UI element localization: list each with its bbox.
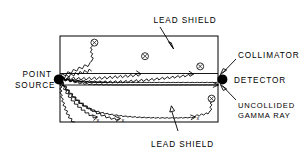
ray-end-marker-x-2: x [122,117,125,123]
label-point-source-line2: SOURCE [15,81,55,90]
gamma-ray-shield-diagram: x x x LEAD SHIELD LEAD SHIELD POINT SOUR… [0,0,304,158]
detector-dot [217,74,227,84]
label-lead-shield-bottom: LEAD SHIELD [151,140,214,149]
collimator-leader [223,59,237,73]
label-lead-shield-top: LEAD SHIELD [154,16,217,25]
label-uncollided-line1: UNCOLLIDED [238,101,295,110]
lead-shield-rectangle [60,36,218,122]
uncollided-gamma-ray-leader [223,86,237,100]
label-point-source-line1: POINT [23,70,53,79]
label-collimator: COLLIMATOR [238,51,299,60]
label-uncollided-line2: GAMMA RAY [238,111,291,120]
label-detector: DETECTOR [234,76,286,85]
